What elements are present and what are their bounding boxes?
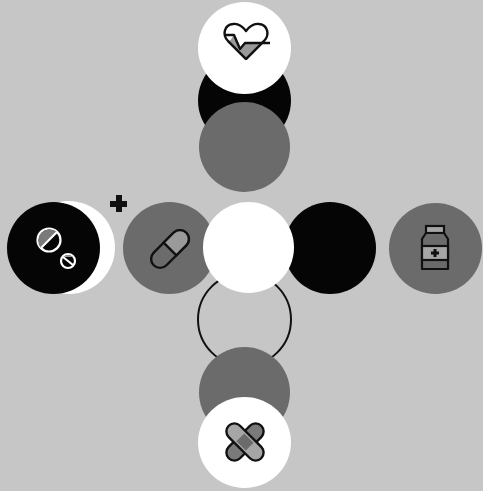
top-white-circle[interactable] xyxy=(198,2,291,94)
bottom-white-circle[interactable] xyxy=(198,397,291,488)
left-black-circle[interactable] xyxy=(7,202,100,294)
heart-pulse-icon xyxy=(220,21,272,63)
right-black-circle xyxy=(284,202,376,294)
right-gray-circle[interactable] xyxy=(389,203,482,294)
plus-icon xyxy=(110,195,127,212)
center-white-circle[interactable] xyxy=(203,202,294,293)
top-gray-circle xyxy=(199,102,290,192)
pills-icon xyxy=(35,226,81,272)
bandage-icon xyxy=(221,417,269,467)
medicine-bottle-icon xyxy=(419,224,451,272)
capsule-icon xyxy=(145,224,195,274)
